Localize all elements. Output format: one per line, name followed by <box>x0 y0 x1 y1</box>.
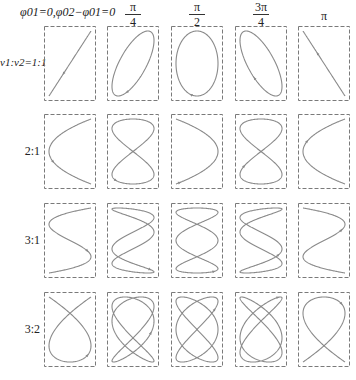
lissajous-figure <box>171 26 223 101</box>
phase-header-text: φ01=0,φ02−φ01=0 <box>20 5 115 19</box>
dashed-frame <box>236 27 287 101</box>
lissajous-curve <box>240 208 282 273</box>
lissajous-figure <box>298 292 350 367</box>
lissajous-curve <box>112 208 154 273</box>
fraction-numerator: 3π <box>253 1 269 15</box>
lissajous-curve <box>303 208 345 273</box>
column-label-1: π4 <box>107 1 159 28</box>
lissajous-curve <box>240 297 282 362</box>
lissajous-curve <box>303 119 345 184</box>
column-label-4: π <box>298 9 350 24</box>
fraction-numerator: π <box>189 1 205 15</box>
dashed-frame <box>108 27 159 101</box>
direction-arrow-icon <box>178 182 181 185</box>
column-label-2: π2 <box>171 1 223 28</box>
lissajous-figure <box>107 26 159 101</box>
row-label-1-1: ν1:ν2=1:1 <box>0 56 44 68</box>
lissajous-figure <box>44 26 96 101</box>
dashed-frame <box>236 204 287 278</box>
phase-header-label: φ01=0,φ02−φ01=0 <box>20 5 115 20</box>
lissajous-curve <box>176 208 218 273</box>
dashed-frame <box>172 27 223 101</box>
lissajous-curve <box>176 31 218 96</box>
lissajous-curve <box>112 297 154 362</box>
lissajous-figure <box>171 114 223 189</box>
lissajous-curve <box>176 119 218 184</box>
lissajous-figure <box>107 114 159 189</box>
lissajous-figure <box>171 292 223 367</box>
lissajous-figure <box>235 203 287 278</box>
lissajous-curve <box>240 119 282 184</box>
lissajous-curve <box>112 119 154 184</box>
dashed-frame <box>299 115 350 189</box>
lissajous-curve <box>176 297 218 362</box>
lissajous-curve <box>303 31 345 96</box>
lissajous-curve <box>49 119 91 184</box>
lissajous-figure <box>107 203 159 278</box>
lissajous-curve <box>49 208 91 273</box>
dashed-frame <box>172 204 223 278</box>
lissajous-figure <box>44 292 96 367</box>
lissajous-curve <box>240 31 282 96</box>
row-label-2-1: 2:1 <box>0 144 40 159</box>
lissajous-figure <box>171 203 223 278</box>
lissajous-figure <box>235 292 287 367</box>
dashed-frame <box>172 115 223 189</box>
lissajous-figure <box>298 203 350 278</box>
dashed-frame <box>45 115 96 189</box>
lissajous-figure <box>44 203 96 278</box>
column-label-3: 3π4 <box>235 1 287 28</box>
lissajous-figure <box>298 26 350 101</box>
dashed-frame <box>108 204 159 278</box>
fraction-numerator: π <box>125 1 141 15</box>
lissajous-figure <box>235 26 287 101</box>
lissajous-figure <box>235 114 287 189</box>
lissajous-figure <box>107 292 159 367</box>
lissajous-curve <box>112 31 154 96</box>
row-label-3-1: 3:1 <box>0 233 40 248</box>
lissajous-curve <box>303 297 345 362</box>
direction-arrow-icon <box>212 271 215 274</box>
lissajous-figure <box>298 114 350 189</box>
lissajous-curve <box>49 31 91 96</box>
lissajous-figure <box>44 114 96 189</box>
lissajous-curve <box>49 297 91 362</box>
row-label-3-2: 3:2 <box>0 322 40 337</box>
